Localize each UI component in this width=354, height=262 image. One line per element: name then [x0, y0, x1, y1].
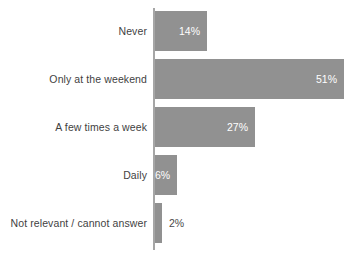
bar-value-only-at-the-weekend: 51% [155, 59, 337, 99]
category-label-only-at-the-weekend: Only at the weekend [49, 59, 147, 99]
category-label-not-relevant-cannot-answer: Not relevant / cannot answer [11, 203, 147, 243]
bar-value-daily: 6% [155, 155, 170, 195]
category-label-never: Never [118, 11, 147, 51]
bar-chart: Never 14% Only at the weekend 51% A few … [0, 0, 354, 262]
bar-row: Daily 6% [0, 155, 354, 195]
bar-not-relevant-cannot-answer [155, 203, 162, 243]
category-label-a-few-times-a-week: A few times a week [55, 107, 147, 147]
bar-value-a-few-times-a-week: 27% [155, 107, 248, 147]
bar-row: Never 14% [0, 11, 354, 51]
bar-value-not-relevant-cannot-answer: 2% [169, 203, 184, 243]
category-label-daily: Daily [123, 155, 147, 195]
bar-row: A few times a week 27% [0, 107, 354, 147]
bar-row: Only at the weekend 51% [0, 59, 354, 99]
bar-row: Not relevant / cannot answer 2% [0, 203, 354, 243]
plot-area: Never 14% Only at the weekend 51% A few … [0, 0, 354, 262]
bar-value-never: 14% [155, 11, 200, 51]
